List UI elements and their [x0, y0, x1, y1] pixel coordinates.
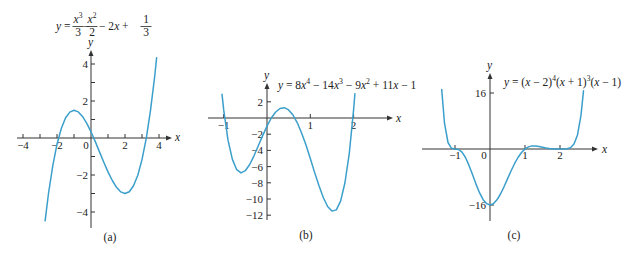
x-tick-label: 0 [481, 149, 487, 161]
y-tick-label: 16 [475, 87, 487, 99]
panel-a: y =x33−x22− 2x +13 −4−202442−2−4 x y (a) [17, 11, 181, 244]
equation-lhs: y = [55, 20, 70, 33]
fraction-denominator: 3 [143, 26, 149, 38]
equation-c: y = (x − 2)4(x + 1)3(x − 1) [503, 74, 621, 89]
y-tick-label: −8 [251, 177, 263, 189]
x-tick-label: −1 [218, 119, 230, 131]
y-axis-arrow-icon [265, 83, 270, 89]
x-tick-label: 2 [122, 139, 128, 151]
fraction-numerator: x3 [73, 11, 83, 25]
x-tick-label: −4 [17, 139, 29, 151]
y-axis-arrow-icon [89, 50, 94, 56]
equation-b: y = 8x4 − 14x3 − 9x2 + 11x − 1 [277, 77, 417, 92]
x-tick-label: 0 [83, 139, 89, 151]
caption-a: (a) [104, 231, 117, 244]
panel-b: y = 8x4 − 14x3 − 9x2 + 11x − 1 −1122−2−4… [208, 69, 417, 242]
y-tick-label: −10 [246, 193, 264, 205]
x-axis-arrow-icon [387, 116, 393, 121]
y-tick-label: 4 [83, 58, 89, 70]
y-axis-label-a: y [87, 36, 94, 49]
fraction-numerator: 1 [143, 13, 149, 25]
x-axis-label-c: x [601, 143, 608, 155]
x-tick-label: 4 [156, 139, 162, 151]
figure: y =x33−x22− 2x +13 −4−202442−2−4 x y (a)… [0, 0, 625, 253]
axes-b: −1122−2−4−6−8−10−12 [208, 83, 393, 221]
curve-c [442, 89, 584, 205]
caption-c: (c) [508, 229, 521, 242]
x-tick-label: 2 [557, 149, 563, 161]
equation-operator: − 2x + [99, 20, 129, 32]
x-axis-label-a: x [174, 131, 181, 143]
x-axis-arrow-icon [592, 147, 598, 152]
x-tick-label: 1 [308, 119, 314, 131]
y-tick-label: −4 [76, 206, 88, 218]
y-axis-label-b: y [263, 69, 270, 82]
fraction-denominator: 3 [75, 26, 81, 38]
y-tick-label: −6 [251, 161, 263, 173]
x-axis-label-b: x [395, 112, 402, 124]
equation-a: y =x33−x22− 2x +13 [55, 11, 152, 38]
caption-b: (b) [299, 229, 313, 242]
y-axis-arrow-icon [488, 73, 493, 79]
x-axis-arrow-icon [166, 136, 172, 141]
y-tick-label: 2 [258, 96, 264, 108]
y-axis-label-c: y [486, 59, 493, 72]
figure-canvas: y =x33−x22− 2x +13 −4−202442−2−4 x y (a)… [0, 0, 625, 253]
panel-c: y = (x − 2)4(x + 1)3(x − 1) −101216−16 x… [422, 59, 621, 242]
fraction-numerator: x2 [87, 11, 97, 25]
y-tick-label: 2 [83, 95, 89, 107]
equation-text: y = 8x4 − 14x3 − 9x2 + 11x − 1 [277, 77, 417, 92]
curve-b [222, 94, 355, 211]
equation-text: y = (x − 2)4(x + 1)3(x − 1) [503, 74, 621, 89]
y-tick-label: −2 [76, 169, 88, 181]
y-tick-label: −12 [246, 209, 263, 221]
